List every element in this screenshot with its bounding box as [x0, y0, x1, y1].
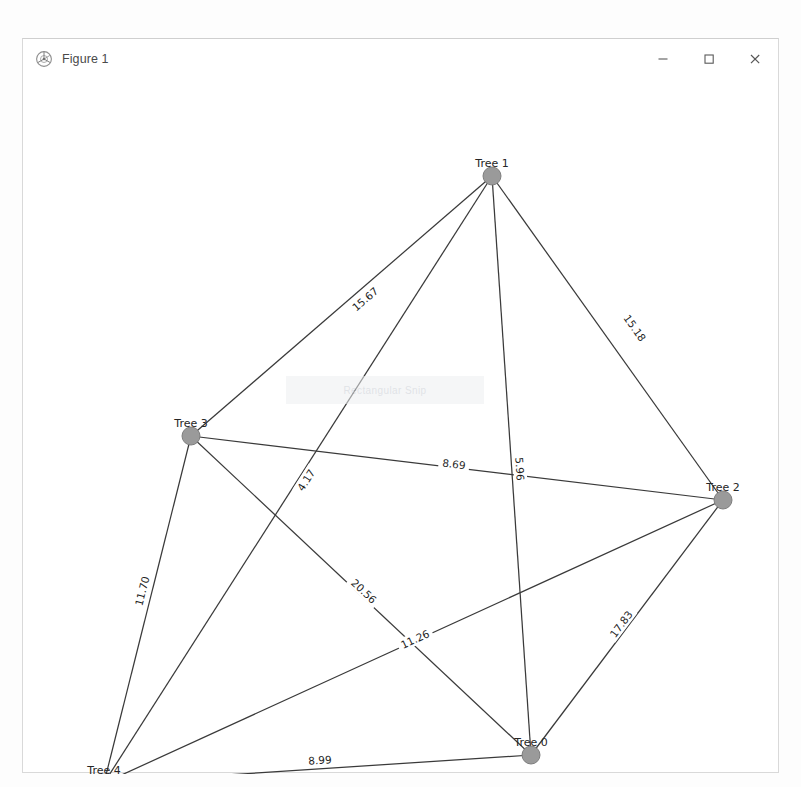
window-title: Figure 1: [62, 52, 109, 66]
node-label: Tree 3: [173, 417, 207, 430]
graph-edge: [104, 436, 191, 774]
graph-edge: [191, 176, 492, 436]
graph-edge: [104, 176, 492, 774]
edge-weight-label: 15.67: [350, 285, 381, 314]
window-titlebar: Figure 1: [23, 39, 778, 79]
network-graph: Tree 0Tree 1Tree 2Tree 3Tree 4 15.6715.1…: [23, 79, 780, 774]
node-label: Tree 0: [513, 736, 547, 749]
edge-weight-label: 5.96: [513, 457, 527, 481]
node-label: Tree 1: [474, 157, 508, 170]
close-button[interactable]: [732, 39, 778, 79]
page-background: Figure 1: [0, 0, 801, 787]
maximize-button[interactable]: [686, 39, 732, 79]
matplotlib-icon: [35, 50, 53, 68]
minimize-button[interactable]: [640, 39, 686, 79]
graph-edge: [531, 500, 723, 755]
edge-labels-group: 15.6715.185.964.178.6911.7020.5611.2617.…: [131, 282, 651, 768]
node-label: Tree 4: [86, 764, 120, 774]
figure-canvas[interactable]: Tree 0Tree 1Tree 2Tree 3Tree 4 15.6715.1…: [23, 79, 778, 774]
figure-window: Figure 1: [22, 38, 779, 773]
node-label: Tree 2: [705, 481, 739, 494]
graph-edge: [492, 176, 723, 500]
edge-weight-label: 8.99: [308, 753, 332, 767]
edge-weight-label: 20.56: [349, 576, 379, 606]
window-controls: [640, 39, 778, 79]
edges-group: [104, 176, 723, 774]
edge-weight-label: 11.26: [399, 627, 432, 651]
nodes-group: Tree 0Tree 1Tree 2Tree 3Tree 4: [86, 157, 739, 774]
